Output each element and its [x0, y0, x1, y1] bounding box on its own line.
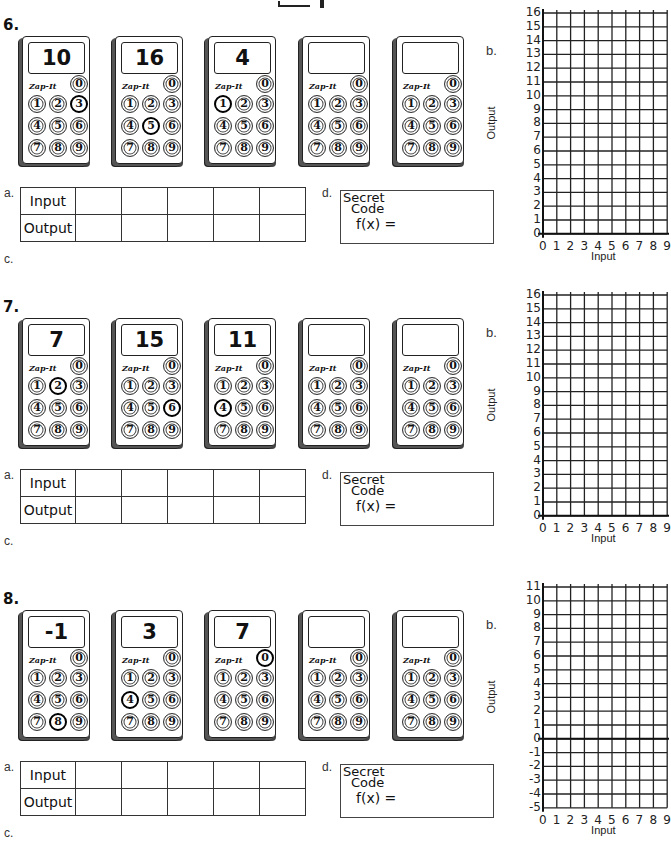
coordinate-grid[interactable]	[490, 4, 669, 276]
calculator-key-6[interactable]: 6	[444, 399, 462, 417]
calculator-key-0[interactable]: 0	[444, 357, 462, 375]
calculator-key-4[interactable]: 4	[121, 691, 139, 709]
input-cell[interactable]	[168, 762, 214, 789]
calculator-key-4[interactable]: 4	[28, 117, 46, 135]
calculator-key-3[interactable]: 3	[70, 377, 88, 395]
calculator-key-5[interactable]: 5	[142, 117, 160, 135]
calculator-key-7[interactable]: 7	[308, 713, 326, 731]
output-cell[interactable]	[76, 789, 122, 816]
calculator-key-6[interactable]: 6	[256, 117, 274, 135]
calculator-key-4[interactable]: 4	[28, 691, 46, 709]
calculator-key-8[interactable]: 8	[49, 139, 67, 157]
calculator-key-8[interactable]: 8	[235, 713, 253, 731]
calculator-key-0[interactable]: 0	[70, 75, 88, 93]
calculator-key-7[interactable]: 7	[308, 421, 326, 439]
calculator-key-5[interactable]: 5	[49, 691, 67, 709]
calculator-key-3[interactable]: 3	[444, 377, 462, 395]
calculator-key-7[interactable]: 7	[214, 139, 232, 157]
calculator-key-6[interactable]: 6	[350, 691, 368, 709]
output-cell[interactable]	[168, 497, 214, 524]
calculator-key-5[interactable]: 5	[329, 691, 347, 709]
output-cell[interactable]	[260, 497, 306, 524]
calculator-key-8[interactable]: 8	[235, 421, 253, 439]
output-cell[interactable]	[76, 497, 122, 524]
input-cell[interactable]	[214, 762, 260, 789]
calculator-key-8[interactable]: 8	[329, 421, 347, 439]
calculator-key-6[interactable]: 6	[163, 117, 181, 135]
calculator-key-9[interactable]: 9	[256, 713, 274, 731]
calculator-key-5[interactable]: 5	[49, 117, 67, 135]
calculator-key-4[interactable]: 4	[214, 399, 232, 417]
output-cell[interactable]	[122, 215, 168, 242]
output-cell[interactable]	[260, 215, 306, 242]
calculator-key-1[interactable]: 1	[28, 377, 46, 395]
output-cell[interactable]	[76, 215, 122, 242]
calculator-key-3[interactable]: 3	[70, 95, 88, 113]
calculator-key-5[interactable]: 5	[49, 399, 67, 417]
calculator-key-0[interactable]: 0	[350, 649, 368, 667]
calculator-key-0[interactable]: 0	[163, 357, 181, 375]
calculator-key-0[interactable]: 0	[350, 75, 368, 93]
calculator-key-1[interactable]: 1	[402, 377, 420, 395]
calculator-key-4[interactable]: 4	[214, 691, 232, 709]
calculator-key-8[interactable]: 8	[142, 713, 160, 731]
calculator-key-0[interactable]: 0	[350, 357, 368, 375]
output-cell[interactable]	[260, 789, 306, 816]
calculator-key-6[interactable]: 6	[163, 399, 181, 417]
calculator-key-4[interactable]: 4	[28, 399, 46, 417]
output-cell[interactable]	[214, 215, 260, 242]
calculator-key-6[interactable]: 6	[350, 399, 368, 417]
calculator-key-9[interactable]: 9	[256, 139, 274, 157]
calculator-key-8[interactable]: 8	[235, 139, 253, 157]
calculator-key-2[interactable]: 2	[423, 669, 441, 687]
calculator-key-8[interactable]: 8	[49, 421, 67, 439]
calculator-key-1[interactable]: 1	[308, 377, 326, 395]
calculator-key-9[interactable]: 9	[163, 713, 181, 731]
calculator-key-1[interactable]: 1	[308, 669, 326, 687]
calculator-key-2[interactable]: 2	[423, 95, 441, 113]
output-cell[interactable]	[168, 789, 214, 816]
calculator-key-4[interactable]: 4	[402, 117, 420, 135]
calculator-key-7[interactable]: 7	[121, 421, 139, 439]
calculator-key-3[interactable]: 3	[256, 377, 274, 395]
calculator-key-2[interactable]: 2	[329, 669, 347, 687]
calculator-key-8[interactable]: 8	[423, 421, 441, 439]
calculator-key-5[interactable]: 5	[423, 691, 441, 709]
calculator-key-1[interactable]: 1	[402, 669, 420, 687]
calculator-key-0[interactable]: 0	[256, 357, 274, 375]
input-cell[interactable]	[260, 470, 306, 497]
calculator-key-4[interactable]: 4	[402, 691, 420, 709]
calculator-key-3[interactable]: 3	[256, 95, 274, 113]
calculator-key-7[interactable]: 7	[28, 139, 46, 157]
output-cell[interactable]	[214, 497, 260, 524]
calculator-key-4[interactable]: 4	[402, 399, 420, 417]
calculator-key-3[interactable]: 3	[70, 669, 88, 687]
input-cell[interactable]	[122, 470, 168, 497]
calculator-key-4[interactable]: 4	[308, 117, 326, 135]
calculator-key-9[interactable]: 9	[350, 421, 368, 439]
calculator-key-4[interactable]: 4	[121, 117, 139, 135]
calculator-key-7[interactable]: 7	[121, 713, 139, 731]
calculator-key-0[interactable]: 0	[444, 649, 462, 667]
calculator-key-2[interactable]: 2	[49, 669, 67, 687]
calculator-key-5[interactable]: 5	[142, 691, 160, 709]
calculator-key-3[interactable]: 3	[350, 377, 368, 395]
calculator-key-9[interactable]: 9	[163, 139, 181, 157]
calculator-key-6[interactable]: 6	[256, 399, 274, 417]
calculator-key-0[interactable]: 0	[256, 649, 274, 667]
calculator-key-2[interactable]: 2	[235, 95, 253, 113]
calculator-key-6[interactable]: 6	[163, 691, 181, 709]
calculator-key-3[interactable]: 3	[163, 377, 181, 395]
calculator-key-0[interactable]: 0	[70, 649, 88, 667]
calculator-key-4[interactable]: 4	[308, 691, 326, 709]
coordinate-grid[interactable]	[490, 286, 669, 558]
calculator-key-1[interactable]: 1	[28, 95, 46, 113]
calculator-key-7[interactable]: 7	[214, 713, 232, 731]
calculator-key-3[interactable]: 3	[444, 95, 462, 113]
input-cell[interactable]	[76, 188, 122, 215]
calculator-key-2[interactable]: 2	[329, 95, 347, 113]
calculator-key-6[interactable]: 6	[350, 117, 368, 135]
secret-code-box[interactable]: SecretCodef(x) =	[340, 764, 494, 818]
output-cell[interactable]	[122, 789, 168, 816]
calculator-key-5[interactable]: 5	[329, 399, 347, 417]
